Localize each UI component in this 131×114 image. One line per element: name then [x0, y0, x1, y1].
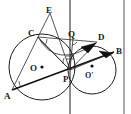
point-label-E: E: [46, 5, 52, 15]
geometry-canvas: A B C D E P Q O O': [0, 0, 131, 114]
point-label-C: C: [28, 28, 35, 38]
center-dot-O: [40, 65, 43, 68]
angle-arc-at-C: [45, 39, 47, 45]
filled-wedge-at-D: [81, 43, 96, 53]
point-label-P: P: [63, 74, 69, 84]
point-label-B: B: [116, 46, 122, 56]
center-dot-O-prime: [90, 64, 93, 67]
center-label-O-prime: O': [85, 71, 93, 80]
segment-A-B: [12, 52, 114, 90]
segment-C-E: [38, 13, 50, 37]
angle-arc-at-A: [19, 81, 21, 87]
point-label-A: A: [4, 91, 11, 101]
center-label-O: O: [30, 63, 37, 73]
geometry-diagram-figure: A B C D E P Q O O': [0, 0, 131, 114]
point-label-D: D: [98, 32, 105, 42]
point-label-Q: Q: [68, 29, 75, 39]
segment-E-P: [50, 13, 70, 70]
